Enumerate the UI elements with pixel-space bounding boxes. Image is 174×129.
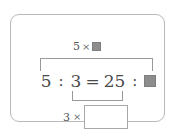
filled-square-icon (92, 42, 101, 51)
proportion-equation: 5 : 3 = 25 : (21, 70, 174, 92)
multiply-icon: × (82, 42, 90, 52)
bottom-multiplier-value: 3 (63, 112, 70, 123)
bottom-multiplier-annotation: 3 × (63, 105, 128, 129)
diagram-card: 5 × 5 : 3 = 25 : 3 × (10, 14, 165, 122)
top-multiplier-annotation: 5 × (73, 41, 101, 52)
unknown-filled-square-icon (144, 75, 156, 87)
equation-colon-right: : (132, 74, 137, 89)
answer-input-box[interactable] (84, 105, 128, 129)
bottom-bracket (72, 91, 123, 101)
equation-right-antecedent: 25 (104, 73, 126, 90)
diagram-canvas: 5 × 5 : 3 = 25 : 3 × (0, 0, 174, 129)
top-multiplier-value: 5 (73, 41, 80, 52)
equation-left-antecedent: 5 (41, 73, 52, 90)
equation-equals-sign: = (85, 73, 99, 90)
multiply-icon: × (73, 112, 81, 122)
equation-colon-left: : (58, 74, 63, 89)
equation-left-consequent: 3 (71, 73, 82, 90)
